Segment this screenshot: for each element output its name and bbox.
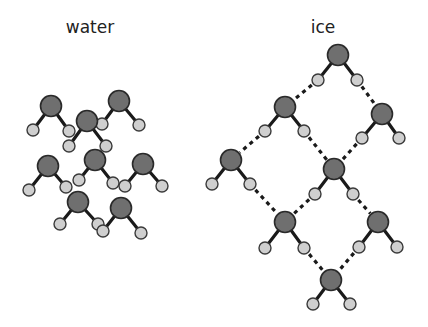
hydrogen-atom-icon xyxy=(312,74,324,86)
hydrogen-atom-icon xyxy=(27,124,39,136)
hydrogen-bond xyxy=(309,254,323,271)
ice-molecule xyxy=(259,212,310,255)
oxygen-atom-icon xyxy=(85,150,106,171)
hydrogen-atom-icon xyxy=(391,241,403,253)
water-molecule xyxy=(119,154,168,193)
hydrogen-bond xyxy=(240,136,259,152)
hydrogen-bond xyxy=(309,137,327,160)
hydrogen-atom-icon xyxy=(54,218,66,230)
hydrogen-atom-icon xyxy=(347,188,359,200)
oxygen-atom-icon xyxy=(38,156,59,177)
ice-molecule xyxy=(356,104,405,145)
water-molecule xyxy=(27,96,75,138)
oxygen-atom-icon xyxy=(321,270,342,291)
hydrogen-atom-icon xyxy=(133,119,145,131)
hydrogen-bond xyxy=(338,253,353,271)
hydrogen-atom-icon xyxy=(393,132,405,144)
oxygen-atom-icon xyxy=(275,212,296,233)
hydrogen-atom-icon xyxy=(107,177,119,189)
ice-molecules xyxy=(206,45,405,311)
hydrogen-atom-icon xyxy=(135,227,147,239)
hydrogen-atom-icon xyxy=(60,181,72,193)
ice-molecule xyxy=(259,97,310,138)
ice-molecule xyxy=(309,159,359,201)
hydrogen-atom-icon xyxy=(259,125,271,137)
oxygen-atom-icon xyxy=(275,97,296,118)
oxygen-atom-icon xyxy=(221,150,242,171)
ice-molecule xyxy=(206,150,256,191)
water-molecules xyxy=(23,91,168,240)
water-molecule xyxy=(97,198,147,240)
hydrogen-atom-icon xyxy=(100,140,112,152)
hydrogen-atom-icon xyxy=(244,178,256,190)
oxygen-atom-icon xyxy=(77,111,98,132)
hydrogen-bond xyxy=(358,200,370,213)
hydrogen-atom-icon xyxy=(298,242,310,254)
hydrogen-atom-icon xyxy=(97,225,109,237)
water-molecule xyxy=(73,150,119,190)
hydrogen-atom-icon xyxy=(353,241,365,253)
hydrogen-atom-icon xyxy=(351,74,363,86)
hydrogen-atom-icon xyxy=(356,132,368,144)
hydrogen-atom-icon xyxy=(259,242,271,254)
hydrogen-bond xyxy=(342,144,357,161)
oxygen-atom-icon xyxy=(372,104,393,125)
hydrogen-atom-icon xyxy=(63,140,75,152)
oxygen-atom-icon xyxy=(328,45,349,66)
water-panel: water xyxy=(23,17,168,239)
hydrogen-bond xyxy=(293,199,309,214)
ice-molecule xyxy=(312,45,363,87)
hydrogen-bond xyxy=(362,86,375,104)
oxygen-atom-icon xyxy=(133,154,154,175)
hydrogen-atom-icon xyxy=(119,180,131,192)
water-molecule xyxy=(23,156,72,197)
hydrogen-atom-icon xyxy=(156,180,168,192)
oxygen-atom-icon xyxy=(109,91,130,112)
oxygen-atom-icon xyxy=(41,96,62,117)
oxygen-atom-icon xyxy=(68,192,89,213)
hydrogen-atom-icon xyxy=(23,184,35,196)
hydrogen-bond xyxy=(255,190,277,214)
water-vs-ice-diagram: water ice xyxy=(0,0,428,327)
oxygen-atom-icon xyxy=(111,198,132,219)
hydrogen-atom-icon xyxy=(298,125,310,137)
ice-molecule xyxy=(353,212,403,254)
hydrogen-bond xyxy=(294,85,312,100)
ice-title: ice xyxy=(311,17,336,37)
hydrogen-atom-icon xyxy=(309,188,321,200)
ice-molecule xyxy=(307,270,356,311)
water-title: water xyxy=(66,17,114,37)
hydrogen-atom-icon xyxy=(73,174,85,186)
water-molecule xyxy=(96,91,145,132)
hydrogen-atom-icon xyxy=(344,298,356,310)
ice-panel: ice xyxy=(206,17,405,310)
oxygen-atom-icon xyxy=(368,212,389,233)
water-molecule xyxy=(54,192,104,231)
oxygen-atom-icon xyxy=(324,159,345,180)
hydrogen-atom-icon xyxy=(63,125,75,137)
hydrogen-atom-icon xyxy=(206,178,218,190)
hydrogen-atom-icon xyxy=(307,298,319,310)
